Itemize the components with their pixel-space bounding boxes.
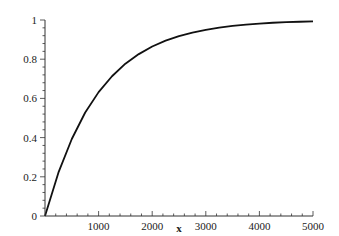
x-axis: 10002000300040005000 bbox=[45, 211, 325, 232]
series-line bbox=[45, 21, 313, 216]
y-tick-label: 0.8 bbox=[23, 53, 37, 65]
x-axis-title: x bbox=[176, 222, 182, 234]
y-tick-label: 0.2 bbox=[23, 171, 37, 183]
y-tick-label: 0 bbox=[32, 210, 38, 222]
y-axis: 00.20.40.60.81 bbox=[23, 14, 45, 222]
x-tick-label: 2000 bbox=[141, 220, 164, 232]
y-tick-label: 0.6 bbox=[23, 92, 37, 104]
x-tick-label: 3000 bbox=[195, 220, 218, 232]
y-tick-label: 1 bbox=[32, 14, 38, 26]
x-tick-label: 4000 bbox=[248, 220, 271, 232]
x-tick-label: 1000 bbox=[88, 220, 111, 232]
y-tick-label: 0.4 bbox=[23, 132, 37, 144]
data-series-curve bbox=[45, 21, 313, 216]
line-chart: 10002000300040005000 00.20.40.60.81 x bbox=[0, 0, 339, 236]
x-tick-label: 5000 bbox=[302, 220, 325, 232]
